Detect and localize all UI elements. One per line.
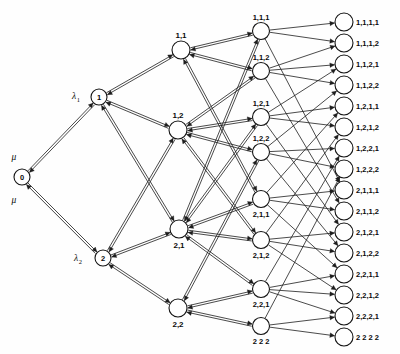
node-circle[interactable] bbox=[335, 202, 353, 220]
node-n222[interactable]: 2 2 2 bbox=[253, 318, 270, 347]
node-circle[interactable] bbox=[169, 299, 187, 317]
node-n22[interactable]: 2,2 bbox=[169, 299, 187, 329]
node-n2211[interactable]: 2,2,1,1 bbox=[335, 265, 379, 283]
node-circle[interactable] bbox=[335, 265, 353, 283]
edge-line-reverse bbox=[187, 312, 252, 326]
node-n111[interactable]: 1,1,1 bbox=[253, 13, 270, 40]
edge-line bbox=[268, 91, 337, 146]
node-n1112[interactable]: 1,1,1,2 bbox=[335, 34, 379, 52]
node-n2121[interactable]: 2,1,2,1 bbox=[335, 223, 379, 241]
edge-n222-to-n1222 bbox=[265, 177, 339, 318]
node-n2221[interactable]: 2,2,2,1 bbox=[335, 307, 379, 325]
node-n221[interactable]: 2,2,1 bbox=[253, 281, 270, 310]
arrowhead-forward bbox=[332, 91, 337, 96]
node-n2[interactable]: 2 bbox=[95, 250, 111, 266]
node-n1[interactable]: 1 bbox=[91, 89, 107, 105]
node-circle[interactable] bbox=[170, 220, 188, 238]
node-n12[interactable]: 1,2 bbox=[169, 111, 187, 139]
arrowhead-forward bbox=[247, 236, 252, 241]
edge-line bbox=[270, 107, 335, 116]
node-label: 1,1,2 bbox=[253, 53, 270, 62]
arrowhead-forward bbox=[330, 315, 335, 320]
node-n1211[interactable]: 1,2,1,1 bbox=[335, 97, 379, 115]
node-n1222[interactable]: 1,2,2,2 bbox=[335, 160, 379, 178]
node-circle[interactable] bbox=[335, 307, 353, 325]
arrowhead-forward bbox=[330, 292, 335, 297]
edge-line bbox=[265, 177, 339, 318]
edge-n22-to-n222 bbox=[187, 310, 252, 326]
node-n21[interactable]: 2,1 bbox=[170, 220, 188, 250]
node-n2122[interactable]: 2,1,2,2 bbox=[335, 244, 379, 262]
node-n122[interactable]: 1,2,2 bbox=[253, 134, 270, 161]
node-label: 1 bbox=[97, 93, 101, 102]
node-circle[interactable] bbox=[335, 286, 353, 304]
node-label: 1,1,1,1 bbox=[356, 18, 379, 27]
edge-line bbox=[267, 159, 338, 246]
edge-line bbox=[106, 55, 172, 93]
arrowhead-reverse bbox=[187, 311, 192, 315]
node-circle[interactable] bbox=[253, 318, 270, 335]
node-circle[interactable] bbox=[253, 23, 270, 40]
node-circle[interactable] bbox=[335, 181, 353, 199]
node-n2112[interactable]: 2,1,1,2 bbox=[335, 202, 379, 220]
node-circle[interactable] bbox=[335, 118, 353, 136]
rate-label-lambda-2: λ2 bbox=[73, 253, 82, 265]
edge-line bbox=[187, 291, 252, 306]
node-circle[interactable] bbox=[335, 139, 353, 157]
node-circle[interactable] bbox=[335, 55, 353, 73]
node-circle[interactable] bbox=[253, 144, 270, 161]
node-circle[interactable] bbox=[253, 232, 270, 249]
edge-line bbox=[188, 202, 253, 226]
node-circle[interactable] bbox=[253, 63, 270, 80]
arrowhead-forward bbox=[330, 21, 335, 26]
node-n112[interactable]: 1,1,2 bbox=[253, 53, 270, 80]
node-circle[interactable] bbox=[335, 97, 353, 115]
node-label: 2,2,1 bbox=[253, 300, 270, 309]
node-n212[interactable]: 2,1,2 bbox=[253, 232, 270, 261]
node-n11[interactable]: 1,1 bbox=[172, 31, 190, 59]
node-circle[interactable] bbox=[172, 41, 190, 59]
edge-line-reverse bbox=[184, 161, 258, 301]
node-n1111[interactable]: 1,1,1,1 bbox=[335, 13, 379, 31]
node-circle[interactable] bbox=[253, 281, 270, 298]
rate-label-lambda-1: λ1 bbox=[71, 91, 80, 103]
arrowhead-forward bbox=[330, 274, 335, 279]
arrowhead-forward bbox=[330, 80, 335, 85]
edge-line bbox=[270, 276, 335, 288]
arrowhead-reverse bbox=[186, 218, 191, 223]
node-label: 2,1,2,2 bbox=[356, 249, 379, 258]
node-label: 2,1,2 bbox=[253, 251, 270, 260]
node-n211[interactable]: 2,1,1 bbox=[253, 191, 270, 220]
node-n1122[interactable]: 1,1,2,2 bbox=[335, 76, 379, 94]
node-n1121[interactable]: 1,1,2,1 bbox=[335, 55, 379, 73]
arrowhead-reverse bbox=[187, 122, 192, 127]
edge-line-reverse bbox=[186, 126, 257, 223]
edge-line bbox=[270, 32, 335, 41]
node-circle[interactable] bbox=[335, 13, 353, 31]
node-n0[interactable]: 0 bbox=[14, 169, 30, 185]
edge-line bbox=[186, 76, 254, 124]
node-circle[interactable] bbox=[169, 121, 187, 139]
node-circle[interactable] bbox=[335, 34, 353, 52]
node-n2111[interactable]: 2,1,1,1 bbox=[335, 181, 379, 199]
node-circle[interactable] bbox=[335, 328, 353, 346]
node-circle[interactable] bbox=[335, 244, 353, 262]
node-label: 1,1,1 bbox=[253, 13, 270, 22]
node-circle[interactable] bbox=[253, 191, 270, 208]
node-circle[interactable] bbox=[335, 223, 353, 241]
edge-line bbox=[269, 69, 336, 112]
node-circle[interactable] bbox=[335, 76, 353, 94]
node-n1212[interactable]: 1,2,1,2 bbox=[335, 118, 379, 136]
edge-line bbox=[270, 23, 335, 30]
node-n1221[interactable]: 1,2,2,1 bbox=[335, 139, 379, 157]
node-n2212[interactable]: 2,2,1,2 bbox=[335, 286, 379, 304]
node-label: 1,2,1,2 bbox=[356, 123, 379, 132]
node-circle[interactable] bbox=[253, 109, 270, 126]
node-circle[interactable] bbox=[335, 160, 353, 178]
arrowhead-forward bbox=[330, 63, 335, 68]
node-label: 1,1,1,2 bbox=[356, 39, 379, 48]
edge-line bbox=[28, 183, 97, 252]
node-n2222[interactable]: 2 2 2 2 bbox=[335, 328, 379, 346]
node-n121[interactable]: 1,2,1 bbox=[253, 99, 270, 126]
edge-n21-to-n121 bbox=[185, 124, 258, 222]
